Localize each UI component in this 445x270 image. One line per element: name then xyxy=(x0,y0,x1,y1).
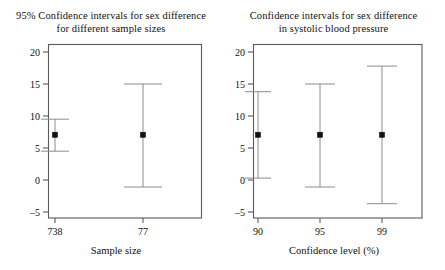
y-tick-label: 20 xyxy=(235,47,245,58)
x-axis-tick-labels-right: 90 95 99 xyxy=(253,226,387,237)
y-tick-label: 20 xyxy=(30,47,40,58)
y-tick-label: 0 xyxy=(35,175,40,186)
y-tick-label: –5 xyxy=(29,207,40,218)
chart-panel-sample-size: 95% Confidence intervals for sex differe… xyxy=(0,0,222,270)
y-tick-label: 0 xyxy=(240,175,245,186)
data-point-marker xyxy=(52,132,57,137)
y-tick-label: –5 xyxy=(234,207,245,218)
x-tick-label: 95 xyxy=(315,226,325,237)
y-tick-label: 5 xyxy=(35,143,40,154)
x-axis-title-left: Sample size xyxy=(91,245,142,256)
error-bar-95 xyxy=(305,84,335,187)
x-tick-label: 99 xyxy=(377,226,387,237)
y-tick-label: 5 xyxy=(240,143,245,154)
y-tick-label: 15 xyxy=(30,79,40,90)
y-tick-label: 10 xyxy=(235,111,245,122)
confidence-interval-figure: 95% Confidence intervals for sex differe… xyxy=(0,0,445,270)
x-tick-label: 90 xyxy=(253,226,263,237)
chart-panel-confidence-level: Confidence intervals for sex difference … xyxy=(222,0,445,270)
y-tick-label: 15 xyxy=(235,79,245,90)
x-axis-ticks-left xyxy=(55,218,143,223)
plot-area-right: 20 15 10 5 0 –5 90 95 99 Confidence leve… xyxy=(222,0,445,270)
y-axis-tick-labels-right: 20 15 10 5 0 –5 xyxy=(234,47,245,218)
data-point-marker xyxy=(255,132,260,137)
error-bar-77 xyxy=(124,84,162,187)
y-axis-ticks-left xyxy=(43,52,49,212)
error-bar-99 xyxy=(367,66,397,204)
plot-area-left: 20 15 10 5 0 –5 738 77 Sample size xyxy=(0,0,222,270)
plot-frame-right xyxy=(254,45,423,219)
x-tick-label: 77 xyxy=(138,226,148,237)
plot-frame-left xyxy=(49,45,202,219)
x-axis-title-right: Confidence level (%) xyxy=(289,245,379,257)
x-tick-label: 738 xyxy=(48,226,63,237)
data-point-marker xyxy=(379,132,384,137)
y-axis-ticks-right xyxy=(248,52,254,212)
x-axis-tick-labels-left: 738 77 xyxy=(48,226,149,237)
x-axis-ticks-right xyxy=(258,218,382,223)
data-point-marker xyxy=(140,132,145,137)
error-bar-738 xyxy=(41,119,69,151)
data-point-marker xyxy=(317,132,322,137)
error-bar-90 xyxy=(245,92,271,178)
y-tick-label: 10 xyxy=(30,111,40,122)
y-axis-tick-labels-left: 20 15 10 5 0 –5 xyxy=(29,47,40,218)
